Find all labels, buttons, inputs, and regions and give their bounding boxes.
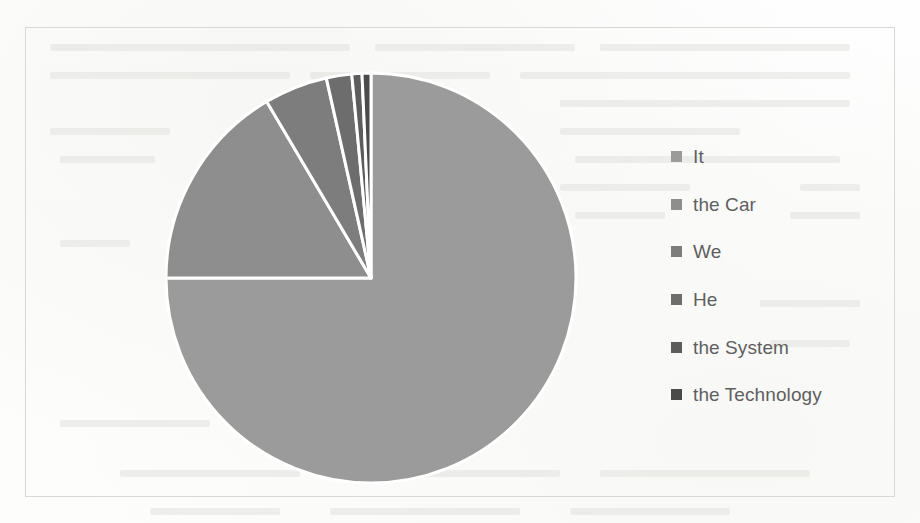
legend-swatch-icon — [671, 389, 682, 400]
legend-item-it[interactable]: It — [671, 133, 896, 181]
legend-swatch-icon — [671, 342, 682, 353]
legend-item-label: It — [693, 147, 704, 166]
legend-item-label: the System — [693, 338, 789, 357]
legend-swatch-icon — [671, 246, 682, 257]
legend-item-we[interactable]: We — [671, 228, 896, 276]
legend-item-label: He — [693, 290, 718, 309]
legend-item-label: the Car — [693, 195, 756, 214]
legend-item-the-technology[interactable]: the Technology — [671, 371, 896, 419]
chart-frame: It the Car We He the System the Technolo — [25, 27, 895, 497]
pie-chart-plot-area — [26, 28, 666, 498]
legend-swatch-icon — [671, 294, 682, 305]
legend-swatch-icon — [671, 151, 682, 162]
legend-item-the-system[interactable]: the System — [671, 323, 896, 371]
legend-item-he[interactable]: He — [671, 276, 896, 324]
legend-item-the-car[interactable]: the Car — [671, 181, 896, 229]
legend-item-label: the Technology — [693, 385, 822, 404]
scanned-page: It the Car We He the System the Technolo — [0, 0, 920, 523]
chart-legend: It the Car We He the System the Technolo — [671, 133, 896, 419]
legend-swatch-icon — [671, 199, 682, 210]
pie-slice-group — [166, 73, 576, 483]
pie-chart[interactable] — [26, 28, 666, 498]
legend-item-label: We — [693, 242, 721, 261]
